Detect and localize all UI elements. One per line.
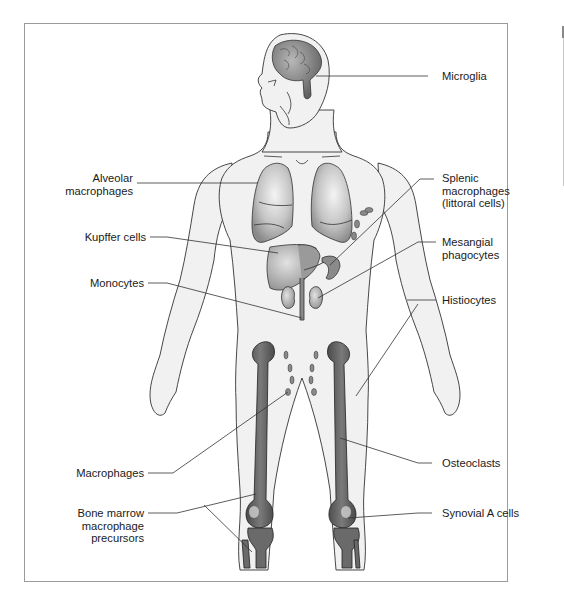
label-line: Bone marrow [60, 507, 144, 520]
label-macrophages: Macrophages [60, 467, 144, 480]
label-line: macrophages [62, 185, 133, 198]
label-alveolar-macrophages: Alveolar macrophages [62, 172, 133, 197]
label-line: phagocytes [442, 249, 499, 262]
label-monocytes: Monocytes [60, 277, 144, 290]
label-histiocytes: Histiocytes [442, 294, 496, 307]
label-osteoclasts: Osteoclasts [442, 457, 500, 470]
label-line: macrophages [442, 185, 510, 198]
label-line: Splenic [442, 172, 510, 185]
label-line: Macrophages [60, 467, 144, 480]
label-line: Microglia [442, 70, 487, 83]
label-line: Monocytes [60, 277, 144, 290]
label-line: macrophage [60, 520, 144, 533]
label-mesangial-phagocytes: Mesangial phagocytes [442, 236, 499, 261]
label-line: Alveolar [62, 172, 133, 185]
label-line: Kupffer cells [60, 231, 146, 244]
label-line: Histiocytes [442, 294, 496, 307]
label-splenic-macrophages: Splenic macrophages (littoral cells) [442, 172, 510, 210]
label-line: Mesangial [442, 236, 499, 249]
label-synovial-a-cells: Synovial A cells [442, 507, 519, 520]
label-line: precursors [60, 532, 144, 545]
label-kupffer-cells: Kupffer cells [60, 231, 146, 244]
label-line: Synovial A cells [442, 507, 519, 520]
label-line: Osteoclasts [442, 457, 500, 470]
body-outline [150, 34, 460, 570]
label-line: (littoral cells) [442, 197, 510, 210]
label-bone-marrow-macrophage-precursors: Bone marrow macrophage precursors [60, 507, 144, 545]
tibia-bones [242, 528, 360, 568]
label-microglia: Microglia [442, 70, 487, 83]
